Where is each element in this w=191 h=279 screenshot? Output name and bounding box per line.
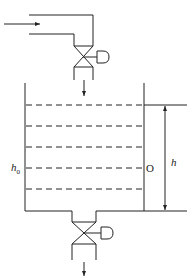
inlet-valve-icon	[74, 46, 109, 80]
tank	[25, 83, 144, 222]
origin-label: O	[146, 163, 154, 174]
initial-level-label: h0	[11, 162, 20, 176]
height-label: h	[171, 157, 177, 168]
outlet-valve-icon	[72, 222, 113, 260]
height-dimension	[144, 105, 187, 211]
level-lines	[26, 105, 143, 189]
inlet-pipe	[29, 15, 93, 46]
diagram-canvas	[0, 0, 191, 279]
